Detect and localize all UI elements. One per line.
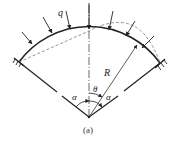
radial-lines [19,62,160,117]
arch-curve [19,26,160,63]
apex-point [88,116,90,118]
theta-label: θ [93,84,98,94]
alpha-right-label: α [106,92,111,102]
figure-caption: (a) [83,125,93,135]
arch-diagram: q R θ α α (a) [0,0,173,145]
left-fixed-support [13,58,24,67]
radius-line [89,45,137,117]
radius-label-R: R [103,67,110,78]
alpha-left-arc [76,101,89,107]
alpha-left-label: α [72,92,77,102]
right-fixed-support [155,59,167,70]
load-label-q: q [58,7,63,18]
alpha-right-arc [89,101,102,107]
